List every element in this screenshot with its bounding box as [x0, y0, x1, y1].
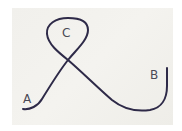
label-a: A — [23, 92, 32, 106]
label-b: B — [150, 68, 158, 82]
label-c: C — [62, 26, 70, 40]
string-loop-diagram: A C B — [0, 0, 182, 131]
string-path — [23, 18, 167, 111]
